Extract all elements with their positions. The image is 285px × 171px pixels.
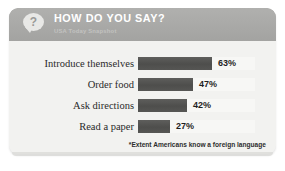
bar-row: Introduce themselves63% [9,56,276,71]
bar-row: Ask directions42% [9,98,276,113]
page-subtitle: USA Today Snapshot [54,27,117,34]
bar-value-label: 42% [193,99,211,112]
bar-row-label: Order food [9,77,134,92]
infographic-page: ? HOW DO YOU SAY? USA Today Snapshot Int… [0,0,285,171]
bar-value-label: 27% [176,120,194,133]
bar-value-label: 63% [218,57,236,70]
snapshot-card: ? HOW DO YOU SAY? USA Today Snapshot Int… [9,8,276,154]
bar-fill [138,57,212,70]
bar-row-label: Introduce themselves [9,56,134,71]
bar-track: 27% [138,120,255,133]
bar-fill [138,120,170,133]
bar-track: 63% [138,57,255,70]
card-header: ? HOW DO YOU SAY? USA Today Snapshot [9,8,276,41]
bar-track: 42% [138,99,255,112]
chart-footnote: *Extent Americans know a foreign languag… [129,141,266,148]
bar-value-label: 47% [199,78,217,91]
bar-track: 47% [138,78,255,91]
bar-row-label: Read a paper [9,119,134,134]
bar-fill [138,78,193,91]
bar-row-label: Ask directions [9,98,134,113]
card-bottom-shadow [12,152,273,156]
page-title: HOW DO YOU SAY? [54,12,165,24]
question-speech-bubble-icon: ? [21,11,48,38]
bar-row: Read a paper27% [9,119,276,134]
bar-row: Order food47% [9,77,276,92]
chart-body: Introduce themselves63%Order food47%Ask … [9,41,276,154]
bar-fill [138,99,187,112]
question-mark-glyph: ? [23,13,44,31]
